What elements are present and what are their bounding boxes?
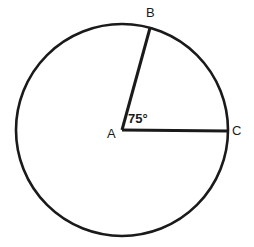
segment-ac-radius bbox=[122, 130, 228, 131]
geometry-figure: A B C 75° bbox=[0, 0, 254, 247]
figure-canvas bbox=[0, 0, 254, 247]
point-label-b: B bbox=[146, 6, 155, 19]
angle-measure-label: 75° bbox=[128, 112, 148, 125]
point-label-a: A bbox=[107, 127, 116, 140]
canvas-background bbox=[0, 0, 254, 247]
point-label-c: C bbox=[232, 124, 241, 137]
